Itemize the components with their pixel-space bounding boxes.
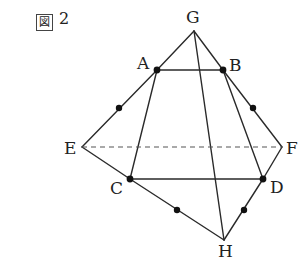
label-G: G xyxy=(186,9,200,26)
segment-AC xyxy=(130,70,157,179)
vertex-dot-D xyxy=(260,176,267,183)
segment-FD xyxy=(263,147,282,179)
label-H: H xyxy=(218,243,233,259)
segment-EC xyxy=(82,147,130,179)
midpoint-dot-AE xyxy=(116,105,122,111)
label-A: A xyxy=(137,55,149,72)
label-E: E xyxy=(64,140,76,157)
segment-BD xyxy=(223,70,263,179)
segment-GH xyxy=(194,31,224,240)
label-B: B xyxy=(229,57,242,74)
label-D: D xyxy=(270,179,284,196)
vertex-dot-B xyxy=(220,67,227,74)
segment-GA xyxy=(157,31,194,70)
figure-2-diagram: 図2 G A B xyxy=(0,0,303,259)
midpoint-dot-BF xyxy=(250,105,256,111)
label-C: C xyxy=(110,180,123,197)
vertex-dot-A xyxy=(154,67,161,74)
vertex-dot-C xyxy=(127,176,134,183)
midpoint-dot-DH xyxy=(241,207,247,213)
label-F: F xyxy=(286,140,298,157)
midpoint-dot-CH xyxy=(174,207,180,213)
geometry-svg xyxy=(0,0,303,259)
